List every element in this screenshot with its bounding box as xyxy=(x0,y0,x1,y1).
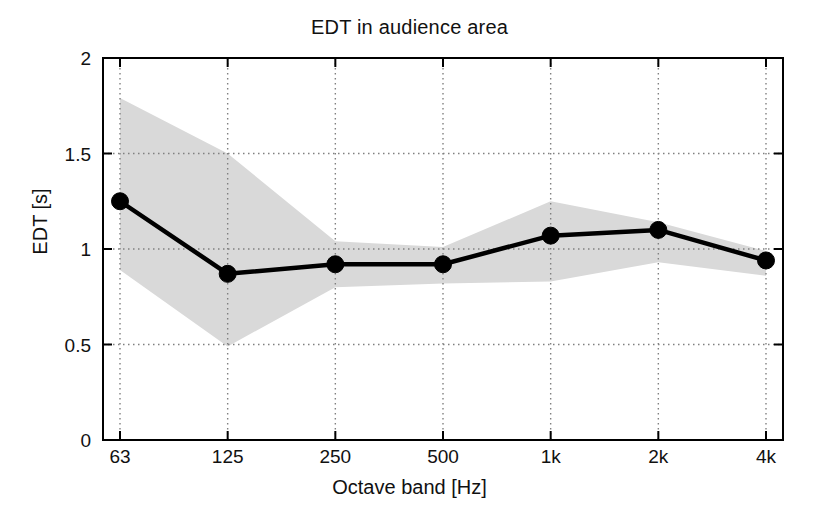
data-point xyxy=(542,227,559,244)
plot-area: 00.511.52 631252505001k2k4k xyxy=(0,0,819,513)
data-point xyxy=(650,221,667,238)
chart-figure: EDT in audience area 00.511.52 631252505… xyxy=(0,0,819,513)
svg-text:63: 63 xyxy=(109,446,130,467)
data-point xyxy=(219,265,236,282)
svg-text:0.5: 0.5 xyxy=(65,335,91,356)
svg-text:125: 125 xyxy=(212,446,244,467)
svg-text:2: 2 xyxy=(80,48,91,69)
x-axis-label: Octave band [Hz] xyxy=(0,476,819,499)
svg-text:2k: 2k xyxy=(648,446,669,467)
data-point xyxy=(112,193,129,210)
svg-text:1.5: 1.5 xyxy=(65,144,91,165)
data-point xyxy=(758,252,775,269)
svg-text:500: 500 xyxy=(427,446,459,467)
y-tick-labels: 00.511.52 xyxy=(65,48,91,451)
x-tick-labels: 631252505001k2k4k xyxy=(109,446,776,467)
data-point xyxy=(327,256,344,273)
svg-text:250: 250 xyxy=(319,446,351,467)
svg-text:0: 0 xyxy=(80,430,91,451)
svg-text:4k: 4k xyxy=(756,446,777,467)
svg-text:1k: 1k xyxy=(541,446,562,467)
y-axis-label: EDT [s] xyxy=(29,122,52,322)
svg-text:1: 1 xyxy=(80,239,91,260)
data-point xyxy=(435,256,452,273)
